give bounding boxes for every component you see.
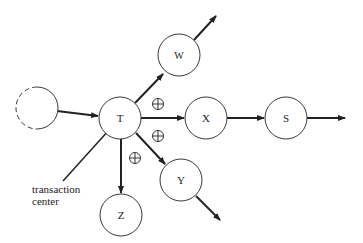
- annotation-pointer-line: [63, 130, 109, 181]
- node-label-X: X: [202, 112, 210, 124]
- xor-operator-icon: [130, 153, 141, 164]
- node-label-W: W: [174, 50, 184, 61]
- node-label-T: T: [117, 112, 124, 124]
- node-Z: Z: [100, 194, 142, 236]
- node-Y: Y: [160, 159, 202, 201]
- node-label-Y: Y: [177, 174, 185, 186]
- node-W: W: [158, 34, 200, 76]
- edge-W-out: [194, 16, 216, 40]
- annotation-text-line1: transaction: [32, 183, 81, 195]
- node-source: [16, 87, 58, 129]
- annotation-text-line2: center: [32, 195, 59, 207]
- node-label-Z: Z: [118, 209, 125, 221]
- transaction-flow-diagram: T W X S Y Z transaction center: [0, 0, 363, 243]
- edge-Y-out: [196, 196, 220, 220]
- xor-operator-icon: [153, 131, 164, 142]
- node-label-S: S: [283, 112, 289, 124]
- edge-source-to-T: [57, 111, 98, 116]
- node-T: T: [99, 97, 141, 139]
- node-X: X: [185, 97, 227, 139]
- xor-operator-icon: [153, 99, 164, 110]
- node-S: S: [265, 97, 307, 139]
